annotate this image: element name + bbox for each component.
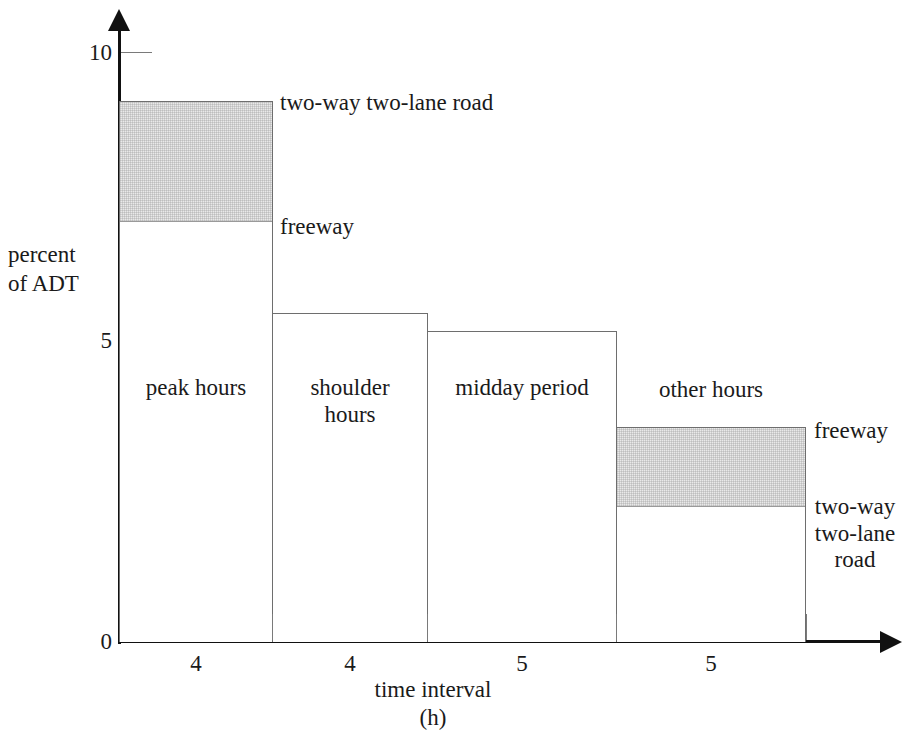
y-axis-title-line-1: percent	[8, 240, 79, 269]
y-axis-title-line-2: of ADT	[8, 269, 79, 298]
y-tick-label-10: 10	[68, 41, 112, 64]
callout-bar1-shade-bottom: freeway	[280, 214, 354, 241]
x-axis-title-unit: (h)	[343, 704, 523, 732]
bar-other-hours-shaded-band	[617, 427, 805, 507]
x-tick-mark-2	[427, 614, 428, 640]
y-axis-title: percent of ADT	[8, 240, 79, 299]
x-axis-title: time interval (h)	[343, 676, 523, 732]
x-tick-label-2: 4	[320, 652, 380, 675]
bar-other-hours-label: other hours	[616, 377, 806, 404]
bar-peak-hours-label: peak hours	[119, 375, 273, 402]
bar-chart: 10 5 0 percent of ADT peak hours two-way…	[0, 0, 911, 734]
bar-shoulder-hours-label: shoulder hours	[272, 375, 428, 428]
callout-bar4-line-2: two-lane	[806, 521, 904, 548]
x-axis-arrow-icon	[880, 631, 902, 653]
bar-shoulder-hours-label-line-2: hours	[272, 402, 428, 429]
y-tick-mark-10	[121, 52, 152, 53]
y-tick-label-0: 0	[68, 630, 112, 653]
x-tick-mark-1	[272, 614, 273, 640]
callout-bar4-top: freeway	[814, 418, 888, 445]
bar-peak-hours-shaded-band	[120, 101, 272, 222]
callout-bar4-shade-bottom: two-way two-lane road	[806, 494, 904, 574]
bar-midday-period-label: midday period	[427, 375, 617, 402]
callout-bar4-line-1: two-way	[806, 494, 904, 521]
x-tick-mark-3	[616, 614, 617, 640]
x-tick-label-3: 5	[492, 652, 552, 675]
x-tick-mark-4	[806, 614, 807, 640]
callout-bar4-line-3: road	[806, 547, 904, 574]
bar-shoulder-hours[interactable]	[272, 313, 428, 642]
x-tick-label-1: 4	[166, 652, 226, 675]
x-tick-label-4: 5	[681, 652, 741, 675]
y-axis-arrow-icon	[108, 9, 130, 31]
bar-shoulder-hours-label-line-1: shoulder	[272, 375, 428, 402]
y-tick-label-5: 5	[68, 329, 112, 352]
x-axis-title-text: time interval	[343, 676, 523, 704]
callout-bar1-top: two-way two-lane road	[280, 90, 493, 117]
